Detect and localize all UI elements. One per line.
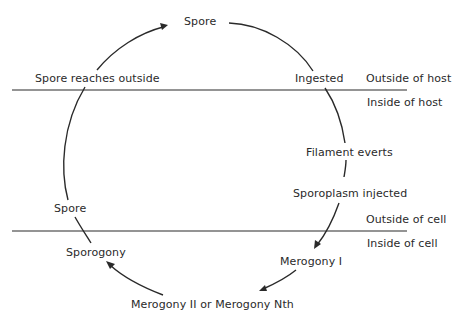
arc-spore-to-reaches-outside [64, 87, 85, 200]
stage-spore-left: Spore [54, 202, 86, 215]
arc-ingested-to-filament [325, 88, 345, 143]
arc-sporoplasm-to-merogony1 [317, 203, 339, 245]
life-cycle-diagram: Spore Spore reaches outside Ingested Fil… [0, 0, 464, 321]
stage-filament-everts: Filament everts [306, 146, 393, 159]
arrowhead-spore-top [160, 23, 168, 30]
stage-sporogony: Sporogony [66, 246, 126, 259]
arc-merogonyN-to-sporogony [110, 265, 163, 295]
label-inside-of-host: Inside of host [367, 96, 443, 109]
arc-reaches-outside-to-spore [97, 27, 163, 70]
arc-sporogony-to-spore [75, 217, 91, 243]
label-outside-of-host: Outside of host [366, 72, 451, 85]
stage-spore-reaches-outside: Spore reaches outside [35, 72, 160, 85]
arrowhead-merogonyN [259, 285, 267, 291]
arc-filament-to-sporoplasm [344, 160, 346, 177]
label-inside-of-cell: Inside of cell [367, 237, 438, 250]
stage-merogony-n: Merogony II or Merogony Nth [131, 298, 294, 311]
stage-ingested: Ingested [295, 72, 344, 85]
arc-spore-to-ingested [229, 23, 313, 71]
diagram-connectors [0, 0, 464, 321]
stage-sporoplasm-injected: Sporoplasm injected [293, 187, 407, 200]
stage-spore-top: Spore [184, 15, 216, 28]
label-outside-of-cell: Outside of cell [366, 213, 447, 226]
stage-merogony-1: Merogony I [280, 255, 342, 268]
arc-merogony1-to-merogonyN [263, 270, 296, 289]
